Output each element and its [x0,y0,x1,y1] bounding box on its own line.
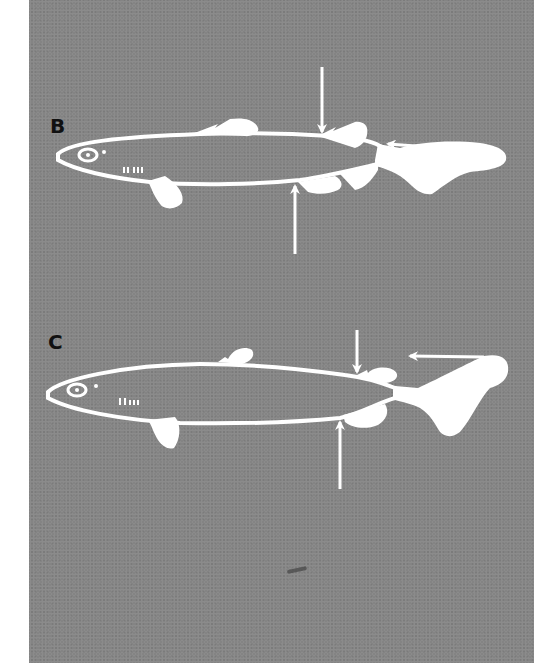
shark-b-pectoral-fin [148,176,183,208]
shark-c-gill-slits [119,398,139,405]
shark-c [48,330,508,489]
diagram-canvas [0,0,545,663]
shark-b-spiracle [102,150,106,154]
shark-b-body-outline [58,133,380,184]
shark-c-second-dorsal-fin [355,368,397,383]
shark-c-first-dorsal-fin [218,348,253,364]
shark-b-gill-slits [123,167,143,173]
shark-c-caudal-fin [395,355,508,436]
shark-b-anal-fin [340,162,378,190]
shark-c-arrow-left [410,356,484,357]
shark-b-first-dorsal-fin [192,118,258,136]
shark-b-second-dorsal-fin [318,122,367,148]
shark-c-body-outline [48,364,395,423]
shark-c-pelvic-fin [343,404,387,428]
shark-b [58,67,506,254]
shark-c-spiracle [94,384,98,388]
shark-b-caudal-fin [375,142,506,195]
shark-c-pectoral-fin [148,417,179,449]
